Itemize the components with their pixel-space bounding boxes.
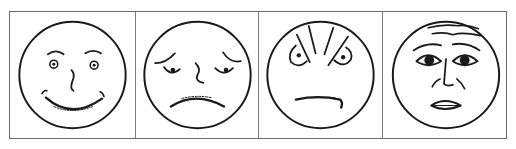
afraid-face-icon xyxy=(383,12,506,138)
panel-happy xyxy=(10,12,136,138)
angry-face-icon xyxy=(259,12,382,138)
panel-sad xyxy=(136,12,259,138)
facial-expressions-strip xyxy=(9,11,507,139)
panel-angry xyxy=(259,12,383,138)
happy-face-icon xyxy=(10,12,135,138)
panel-afraid xyxy=(383,12,506,138)
sad-face-icon xyxy=(136,12,258,138)
